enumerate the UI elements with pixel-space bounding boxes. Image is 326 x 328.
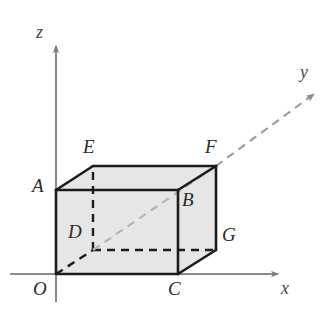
axis-label-y: y (300, 63, 308, 81)
vertex-label-E: E (83, 137, 95, 156)
vertex-label-F: F (205, 137, 217, 156)
diagram-canvas (0, 0, 326, 328)
vertex-label-B: B (182, 190, 194, 209)
vertex-label-D: D (68, 222, 82, 241)
axis-label-x: x (281, 279, 289, 297)
vertex-label-G: G (222, 225, 236, 244)
vertex-label-O: O (33, 279, 47, 298)
vertex-label-A: A (32, 176, 44, 195)
geometry-figure: O A B C D E F G z y x (0, 0, 326, 328)
box-solid (56, 166, 216, 274)
axis-label-z: z (36, 23, 43, 41)
y-axis-line-outer (216, 94, 314, 166)
vertex-label-C: C (168, 279, 181, 298)
